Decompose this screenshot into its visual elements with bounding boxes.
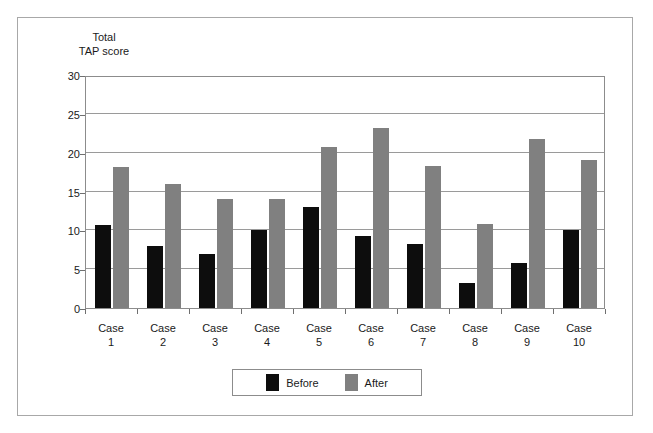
bar-group	[398, 77, 450, 308]
bar-group	[86, 77, 138, 308]
x-tick-mark-0	[85, 309, 86, 314]
legend-label-after: After	[365, 377, 388, 389]
bar-group	[346, 77, 398, 308]
x-axis-label-case-5: Case 5	[293, 321, 345, 349]
x-axis-label-case-9: Case 9	[501, 321, 553, 349]
bar-group	[450, 77, 502, 308]
chart-legend: Before After	[232, 369, 422, 396]
bar-before-case-1[interactable]	[95, 225, 111, 308]
legend-label-before: Before	[286, 377, 318, 389]
bar-group	[554, 77, 606, 308]
bar-group	[294, 77, 346, 308]
bar-before-case-2[interactable]	[147, 246, 163, 308]
bar-after-case-3[interactable]	[217, 199, 233, 308]
y-tick-label-0: 0	[46, 303, 80, 315]
bar-after-case-8[interactable]	[477, 224, 493, 308]
x-axis-label-case-2: Case 2	[137, 321, 189, 349]
y-tick-label-5: 5	[46, 264, 80, 276]
x-axis-label-case-1: Case 1	[85, 321, 137, 349]
bar-before-case-3[interactable]	[199, 254, 215, 308]
bar-group	[502, 77, 554, 308]
x-tick-mark-5	[345, 309, 346, 314]
bar-before-case-8[interactable]	[459, 283, 475, 308]
bar-after-case-7[interactable]	[425, 166, 441, 308]
y-tick-label-20: 20	[46, 148, 80, 160]
x-axis-label-case-3: Case 3	[189, 321, 241, 349]
bar-group	[138, 77, 190, 308]
y-tick-label-15: 15	[46, 187, 80, 199]
gray-swatch-icon	[345, 374, 358, 391]
legend-entry-after[interactable]: After	[345, 374, 388, 391]
bar-after-case-1[interactable]	[113, 167, 129, 308]
y-axis-tick-labels: 051015202530	[40, 76, 80, 309]
x-axis-label-case-8: Case 8	[449, 321, 501, 349]
x-tick-mark-3	[241, 309, 242, 314]
bar-after-case-6[interactable]	[373, 128, 389, 308]
y-tick-label-25: 25	[46, 109, 80, 121]
bar-after-case-10[interactable]	[581, 160, 597, 308]
bar-after-case-5[interactable]	[321, 147, 337, 308]
x-tick-mark-8	[501, 309, 502, 314]
x-axis-label-case-7: Case 7	[397, 321, 449, 349]
x-tick-mark-1	[137, 309, 138, 314]
bar-before-case-9[interactable]	[511, 263, 527, 308]
y-tick-label-30: 30	[46, 70, 80, 82]
x-tick-mark-2	[189, 309, 190, 314]
bar-before-case-10[interactable]	[563, 230, 579, 308]
x-axis-label-case-6: Case 6	[345, 321, 397, 349]
x-axis-label-case-4: Case 4	[241, 321, 293, 349]
black-swatch-icon	[266, 374, 279, 391]
x-tick-mark-9	[553, 309, 554, 314]
chart-figure-frame: Total TAP score 051015202530 Case 1Case …	[17, 17, 633, 416]
x-axis-label-case-10: Case 10	[553, 321, 605, 349]
bar-after-case-2[interactable]	[165, 184, 181, 308]
x-tick-mark-6	[397, 309, 398, 314]
x-tick-mark-7	[449, 309, 450, 314]
y-axis-title: Total TAP score	[44, 30, 164, 58]
bar-before-case-6[interactable]	[355, 236, 371, 308]
x-tick-mark-10	[605, 309, 606, 314]
bar-group	[242, 77, 294, 308]
bar-group	[190, 77, 242, 308]
bar-before-case-5[interactable]	[303, 207, 319, 308]
bar-before-case-4[interactable]	[251, 230, 267, 308]
plot-area	[85, 76, 605, 309]
bar-before-case-7[interactable]	[407, 244, 423, 308]
bar-after-case-9[interactable]	[529, 139, 545, 308]
legend-entry-before[interactable]: Before	[266, 374, 318, 391]
y-tick-label-10: 10	[46, 225, 80, 237]
x-tick-mark-4	[293, 309, 294, 314]
bar-after-case-4[interactable]	[269, 199, 285, 308]
